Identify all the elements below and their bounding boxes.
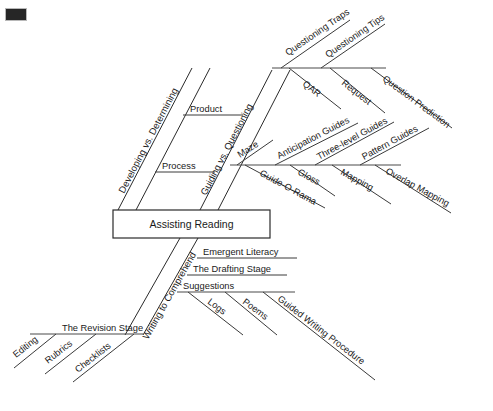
rib-guided-writing-procedure (263, 292, 375, 380)
label-the-drafting-stage: The Drafting Stage (193, 264, 271, 274)
fishbone-svg: Assisting Reading Product Process Develo… (0, 0, 493, 411)
label-logs: Logs (206, 297, 228, 317)
rib-checklists (73, 334, 134, 382)
label-process: Process (162, 161, 196, 171)
label-checklists: Checklists (73, 340, 113, 374)
label-anticipation-guides: Anticipation Guides (275, 115, 351, 161)
branch-developing-bone (118, 68, 192, 210)
label-emergent-literacy: Emergent Literacy (203, 247, 279, 257)
label-product: Product (190, 104, 222, 114)
label-maze: Maze (236, 139, 261, 160)
label-guided-writing-procedure: Guided Writing Procedure (276, 294, 367, 367)
label-request: Request (340, 78, 374, 107)
center-box-label: Assisting Reading (149, 218, 233, 230)
label-qar: QAR (301, 79, 323, 99)
label-writing-to-comprehend: Writing to Comprehend (140, 250, 198, 341)
label-suggestions: Suggestions (183, 281, 235, 291)
label-overlap-mapping: Overlap Mapping (384, 166, 451, 209)
label-rubrics: Rubrics (43, 338, 74, 365)
label-question-prediction: Question Prediction (381, 74, 452, 130)
label-mapping: Mapping (339, 167, 375, 193)
label-gloss: Gloss (296, 167, 322, 187)
label-developing-vs-determining: Developing vs. Determining (116, 86, 180, 195)
fishbone-diagram-canvas: Assisting Reading Product Process Develo… (0, 0, 493, 411)
label-the-revision-stage: The Revision Stage (62, 323, 143, 333)
label-editing: Editing (11, 334, 40, 359)
